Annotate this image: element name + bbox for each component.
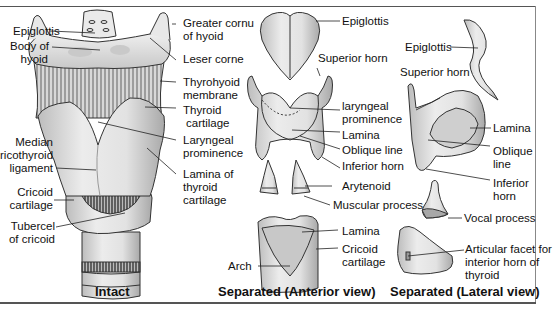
label-lamina-thyroid-3: cartilage <box>183 194 226 207</box>
label-lamina-lateral: Lamina <box>493 122 531 135</box>
label-lamina-thyroid-2: thyroid <box>183 181 218 194</box>
label-laryngeal-prominence-anterior-1: laryngeal <box>342 100 389 113</box>
label-superior-horn-lateral: Superior horn <box>400 66 470 79</box>
label-cricoid-lamina: Lamina <box>342 225 380 238</box>
label-tubercel-2: of cricoid <box>0 233 55 246</box>
label-laryngeal-prominence-anterior-2: prominence <box>342 113 402 126</box>
label-median-cricothyroid-3: ligament <box>0 162 53 175</box>
label-lesser-corne: Leser corne <box>183 53 244 66</box>
label-articular-facet-3: thyroid <box>465 269 500 282</box>
label-median-cricothyroid-1: Median <box>0 136 53 149</box>
label-thyrohyoid-2: membrane <box>183 89 238 102</box>
label-articular-facet-1: Articular facet for <box>465 243 552 256</box>
label-arch: Arch <box>228 260 252 273</box>
caption-anterior-view: Separated (Anterior view) <box>218 284 376 299</box>
label-oblique-line-lateral-1: Oblique <box>493 145 533 158</box>
lateral-view <box>398 20 498 274</box>
label-laryngeal-prominence-1: Laryngeal <box>183 134 234 147</box>
label-tubercel-1: Tubercel <box>0 220 55 233</box>
label-oblique-line-lateral-2: line <box>493 158 511 171</box>
label-oblique-line-anterior: Oblique line <box>342 144 403 157</box>
label-superior-horn-anterior: Superior horn <box>318 52 388 65</box>
label-body-of-hyoid-1: Body of <box>10 40 48 53</box>
label-cricoid-2: cartilage <box>0 199 53 212</box>
caption-intact: Intact <box>95 284 130 299</box>
label-greater-cornu-1: Greater cornu <box>183 17 254 30</box>
label-inferior-horn-lateral-1: Inferior <box>493 177 529 190</box>
label-epiglottis-intact: Epiglottis <box>13 25 60 38</box>
label-inferior-horn-lateral-2: horn <box>493 190 516 203</box>
label-arytenoid: Arytenoid <box>342 180 391 193</box>
label-greater-cornu-2: of hyoid <box>183 30 223 43</box>
label-cricoid-cartilage-anterior-2: cartilage <box>342 256 385 269</box>
label-articular-facet-2: interior horn of <box>465 256 539 269</box>
larynx-diagram: Epiglottis Body of hyoid Greater cornu o… <box>0 0 558 312</box>
label-thyroid-cartilage-2: cartilage <box>186 117 229 130</box>
label-vocal-process: Vocal process <box>464 212 536 225</box>
label-lamina-thyroid-1: Lamina of <box>183 168 234 181</box>
label-epiglottis-anterior: Epiglottis <box>342 15 389 28</box>
label-median-cricothyroid-2: ricothyroid <box>0 149 53 162</box>
label-cricoid-cartilage-anterior-1: Cricoid <box>342 243 378 256</box>
label-cricoid-1: Cricoid <box>0 186 53 199</box>
caption-lateral-view: Separated (Lateral view) <box>390 284 540 299</box>
label-body-of-hyoid-2: hyoid <box>10 53 48 66</box>
label-thyroid-cartilage-1: Thyroid <box>183 104 221 117</box>
label-muscular-process: Muscular process <box>333 199 423 212</box>
label-inferior-horn-anterior: Inferior horn <box>342 160 404 173</box>
label-laryngeal-prominence-2: prominence <box>183 147 243 160</box>
label-thyrohyoid-1: Thyrohyoid <box>183 76 240 89</box>
label-epiglottis-lateral: Epiglottis <box>405 41 452 54</box>
label-lamina-anterior: Lamina <box>342 129 380 142</box>
